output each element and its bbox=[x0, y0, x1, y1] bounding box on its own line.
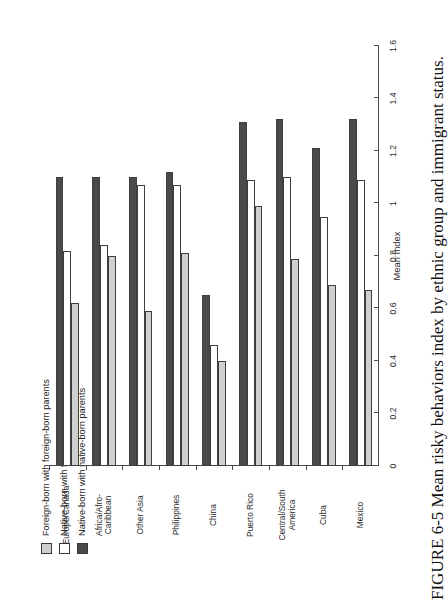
bar-3-series-1 bbox=[246, 180, 254, 466]
value-axis-title: Mean Index bbox=[391, 46, 409, 466]
category-tick-0 bbox=[342, 465, 343, 470]
bar-7-series-0 bbox=[107, 256, 115, 466]
value-tick-4 bbox=[374, 255, 379, 256]
bar-8-series-2 bbox=[55, 177, 63, 466]
category-label-5: Philippines bbox=[172, 472, 181, 558]
category-label-2: Central/South America bbox=[277, 472, 296, 558]
value-tick-8 bbox=[374, 45, 379, 46]
bar-2-series-0 bbox=[291, 259, 299, 466]
category-tick-5 bbox=[159, 465, 160, 470]
bar-0-series-0 bbox=[364, 290, 372, 466]
bar-8-series-0 bbox=[71, 303, 79, 466]
bar-4-series-2 bbox=[202, 295, 210, 466]
value-tick-6 bbox=[374, 150, 379, 151]
category-tick-7 bbox=[85, 465, 86, 470]
value-tick-5 bbox=[374, 203, 379, 204]
bar-5-series-1 bbox=[173, 185, 181, 466]
bar-5-series-0 bbox=[181, 253, 189, 466]
category-label-3: Puerto Rico bbox=[245, 472, 254, 558]
legend-swatch-icon-series-2 bbox=[77, 543, 88, 554]
bar-8-series-1 bbox=[63, 251, 71, 466]
value-tick-2 bbox=[374, 360, 379, 361]
category-label-8: Europe/Canada bbox=[62, 472, 71, 558]
category-label-0: Mexico bbox=[355, 472, 364, 558]
bar-1-series-1 bbox=[320, 217, 328, 466]
figure-caption-wrapper: FIGURE 6-5 Mean risky behaviors index by… bbox=[428, 0, 448, 600]
figure-caption: FIGURE 6-5 Mean risky behaviors index by… bbox=[428, 0, 448, 600]
plot-region: 00.20.40.60.811.21.41.6 MexicoCubaCentra… bbox=[49, 46, 379, 466]
bar-1-series-2 bbox=[312, 148, 320, 466]
bar-5-series-2 bbox=[165, 172, 173, 466]
bar-7-series-2 bbox=[92, 177, 100, 466]
category-tick-4 bbox=[195, 465, 196, 470]
category-label-6: Other Asia bbox=[135, 472, 144, 558]
bar-3-series-0 bbox=[254, 206, 262, 466]
legend-swatch-icon-series-0 bbox=[41, 543, 52, 554]
category-tick-6 bbox=[122, 465, 123, 470]
bar-1-series-0 bbox=[327, 285, 335, 466]
category-label-4: China bbox=[209, 472, 218, 558]
value-tick-7 bbox=[374, 98, 379, 99]
category-tick-2 bbox=[269, 465, 270, 470]
figure-plot-area: Foreign-born with foreign-born parents N… bbox=[35, 2, 407, 562]
bar-2-series-1 bbox=[283, 177, 291, 466]
category-tick-3 bbox=[232, 465, 233, 470]
value-axis-line bbox=[378, 46, 379, 466]
value-tick-3 bbox=[374, 308, 379, 309]
bar-2-series-2 bbox=[275, 120, 283, 467]
category-label-1: Cuba bbox=[319, 472, 328, 558]
bar-4-series-1 bbox=[210, 345, 218, 466]
value-tick-1 bbox=[374, 413, 379, 414]
category-tick-end bbox=[49, 465, 50, 470]
bar-4-series-0 bbox=[217, 361, 225, 466]
bar-3-series-2 bbox=[238, 122, 246, 466]
bar-6-series-0 bbox=[144, 311, 152, 466]
chart-canvas: Foreign-born with foreign-born parents N… bbox=[35, 2, 407, 562]
bar-6-series-1 bbox=[136, 185, 144, 466]
bar-7-series-1 bbox=[100, 246, 108, 467]
bar-0-series-1 bbox=[356, 180, 364, 466]
category-tick-1 bbox=[305, 465, 306, 470]
value-tick-0 bbox=[374, 465, 379, 466]
bar-6-series-2 bbox=[128, 177, 136, 466]
bar-0-series-2 bbox=[348, 120, 356, 467]
category-label-7: Africa/Afro- Caribbean bbox=[94, 472, 113, 558]
